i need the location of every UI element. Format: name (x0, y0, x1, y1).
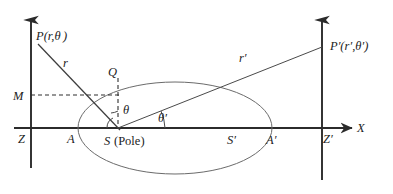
label-point-z: Z (18, 132, 26, 146)
label-point-s-prime: S′ (227, 133, 236, 147)
diagram-canvas: P(r,θ ) P′(r′,θ′) r r′ Q M Z Z′ A A′ S (… (0, 0, 393, 194)
label-point-m: M (12, 89, 24, 103)
label-point-p: P(r,θ ) (35, 29, 67, 43)
angle-marker-at-s (107, 118, 113, 128)
angle-arc-theta (111, 111, 118, 113)
focal-ray-to-p-prime (118, 47, 322, 128)
label-axis-x: X (356, 121, 366, 135)
label-point-p-prime: P′(r′,θ′) (329, 39, 368, 53)
label-point-s-pole-paren: (Pole) (114, 134, 145, 148)
label-angle-theta-prime: θ′ (158, 111, 167, 125)
label-point-a-prime: A′ (265, 133, 277, 147)
radius-vector-r (38, 44, 120, 130)
label-radius-r-prime: r′ (239, 51, 247, 65)
label-radius-r: r (63, 56, 68, 70)
polar-conic-diagram: P(r,θ ) P′(r′,θ′) r r′ Q M Z Z′ A A′ S (… (0, 0, 393, 194)
label-point-q: Q (108, 65, 117, 79)
label-point-z-prime: Z′ (323, 132, 333, 146)
label-angle-theta: θ (123, 103, 129, 117)
label-point-a: A (66, 132, 75, 146)
label-point-s-pole: S (104, 134, 111, 148)
